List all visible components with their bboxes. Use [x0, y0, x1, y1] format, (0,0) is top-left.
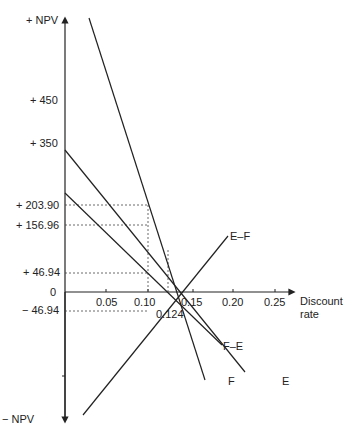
label-E: E	[282, 375, 289, 387]
y-tick: + 450	[30, 94, 58, 106]
y-tick: + 156.96	[16, 219, 59, 231]
y-tick: − 46.94	[22, 304, 59, 316]
x-annotation: 0.124	[156, 308, 184, 320]
y-tick: 0	[50, 286, 56, 298]
label-F-E: F–E	[223, 340, 243, 352]
x-axis-label: Discount	[300, 295, 343, 307]
x-tick: 0.20	[222, 296, 243, 308]
x-tick: 0.15	[181, 296, 202, 308]
y-tick: + 46.94	[23, 266, 60, 278]
y-label-top: + NPV	[26, 14, 59, 26]
x-tick: 0.25	[264, 296, 285, 308]
npv-chart: + NPV − NPV + 450 + 350 + 203.90 + 156.9…	[0, 0, 355, 438]
line-F	[89, 18, 205, 380]
label-F: F	[228, 375, 235, 387]
x-tick: 0.05	[96, 296, 117, 308]
y-tick: + 203.90	[16, 199, 59, 211]
y-label-bottom: − NPV	[2, 413, 35, 425]
line-F-E	[65, 193, 222, 345]
line-E	[65, 150, 245, 372]
x-tick: 0.10	[134, 296, 155, 308]
label-E-F: E–F	[230, 230, 250, 242]
x-axis-label-2: rate	[300, 308, 319, 320]
line-E-F	[83, 236, 228, 415]
y-tick: + 350	[30, 137, 58, 149]
